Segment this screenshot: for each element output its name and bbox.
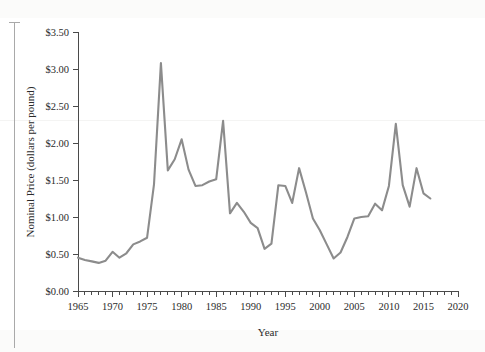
x-tick-label: 2005 bbox=[344, 301, 365, 312]
x-axis-tick-labels: 1965197019751980198519901995200020052010… bbox=[68, 301, 469, 312]
x-axis bbox=[78, 291, 458, 297]
y-tick-label: $2.00 bbox=[45, 138, 69, 149]
x-tick-label: 2020 bbox=[448, 301, 469, 312]
chart-plot-area: $0.00$0.50$1.00$1.50$2.00$2.50$3.00$3.50… bbox=[0, 0, 485, 352]
y-axis-title: Nominal Price (dollars per pound) bbox=[24, 86, 37, 237]
x-tick-label: 1995 bbox=[275, 301, 296, 312]
y-tick-label: $0.00 bbox=[45, 286, 69, 297]
y-tick-label: $3.50 bbox=[45, 27, 69, 38]
x-tick-label: 1980 bbox=[171, 301, 192, 312]
x-tick-label: 1975 bbox=[137, 301, 158, 312]
series-line-nominal-price bbox=[78, 63, 430, 263]
x-tick-label: 2010 bbox=[378, 301, 399, 312]
y-tick-label: $0.50 bbox=[45, 249, 69, 260]
y-axis-tick-labels: $0.00$0.50$1.00$1.50$2.00$2.50$3.00$3.50 bbox=[45, 27, 69, 297]
x-tick-label: 1985 bbox=[206, 301, 227, 312]
y-tick-label: $2.50 bbox=[45, 101, 69, 112]
x-tick-label: 1965 bbox=[68, 301, 89, 312]
x-axis-minor-ticks bbox=[85, 291, 451, 295]
y-tick-label: $1.00 bbox=[45, 212, 69, 223]
x-tick-label: 2000 bbox=[309, 301, 330, 312]
line-chart: $0.00$0.50$1.00$1.50$2.00$2.50$3.00$3.50… bbox=[0, 0, 485, 352]
x-axis-title: Year bbox=[258, 326, 279, 338]
y-tick-label: $3.00 bbox=[45, 64, 69, 75]
x-tick-label: 1990 bbox=[240, 301, 261, 312]
x-tick-label: 1970 bbox=[102, 301, 123, 312]
x-tick-label: 2015 bbox=[413, 301, 434, 312]
y-tick-label: $1.50 bbox=[45, 175, 69, 186]
page-canvas: $0.00$0.50$1.00$1.50$2.00$2.50$3.00$3.50… bbox=[0, 0, 485, 352]
y-axis bbox=[73, 32, 78, 291]
